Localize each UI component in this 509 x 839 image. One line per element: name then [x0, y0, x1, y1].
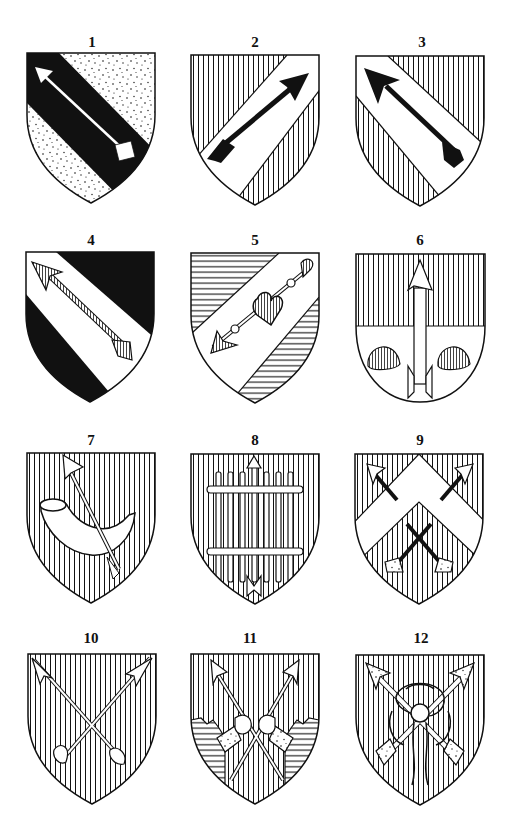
shield-number-label: 11: [185, 630, 315, 646]
shield-number-label: 3: [357, 34, 487, 50]
shield-number-label: 5: [190, 232, 320, 248]
shield-9-chevron-between-arrows: [355, 454, 485, 606]
shield-number-label: 6: [355, 232, 485, 248]
shield-7-horn-and-arrow: [27, 453, 155, 605]
shield-number-label: 12: [356, 630, 486, 646]
shield-4-bend-argent-arrow: [26, 252, 154, 404]
shield-1-bend-sable-arrow: [27, 53, 155, 205]
shield-number-label: 7: [26, 432, 156, 448]
shield-number-label: 10: [26, 630, 156, 646]
shield-12-arrows-with-knot: [356, 655, 484, 807]
shield-3-bend-arrow: [356, 56, 484, 208]
shield-6-per-fess-arrow-escallops: [356, 254, 486, 406]
shield-5-bend-heart-arrow: [191, 253, 319, 405]
shield-number-label: 8: [190, 432, 320, 448]
shield-number-label: 1: [27, 34, 157, 50]
shield-2-bend-sinister-arrow: [191, 55, 319, 207]
shield-number-label: 4: [26, 232, 156, 248]
shield-number-label: 2: [190, 34, 320, 50]
shield-number-label: 9: [355, 432, 485, 448]
shield-10-arrows-in-saltire: [28, 654, 156, 806]
shield-8-sheaf-of-arrows: [191, 454, 321, 606]
shield-11-arms-holding-arrows: [191, 654, 319, 806]
